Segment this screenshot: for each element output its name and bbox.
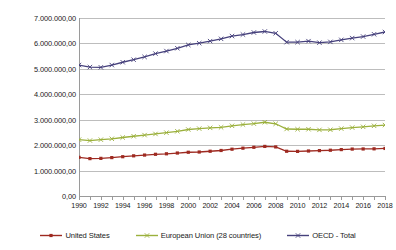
x-axis-tick (276, 196, 277, 200)
data-point-marker (383, 147, 385, 150)
x-axis-tick (156, 196, 157, 200)
legend-marker-icon (287, 231, 309, 240)
series-line (79, 122, 385, 140)
y-axis-tick-label: 4.000.000,00 (34, 90, 76, 99)
x-axis-tick (101, 196, 102, 200)
series-united-states (79, 145, 385, 160)
data-point-marker (165, 152, 168, 155)
x-axis-tick-label: 2000 (181, 201, 196, 210)
x-axis-tick (374, 196, 375, 200)
x-axis-tick-label: 2018 (377, 201, 392, 210)
x-axis-tick-label: 2014 (334, 201, 349, 210)
data-point-marker (198, 150, 201, 153)
x-axis-tick (265, 196, 266, 200)
x-axis-tick (330, 196, 331, 200)
x-axis-tick (210, 196, 211, 200)
data-point-marker (99, 157, 102, 160)
legend-label: United States (65, 231, 109, 240)
y-axis-tick-label: 6.000.000,00 (34, 39, 76, 48)
legend-item[interactable]: United States (40, 231, 109, 240)
data-point-marker (79, 156, 81, 159)
data-point-marker (285, 150, 288, 153)
legend-marker-icon (136, 231, 158, 240)
series-oecd-total (79, 29, 385, 69)
y-axis-tick-label: 7.000.000,00 (34, 14, 76, 23)
x-axis-tick-label: 2004 (224, 201, 239, 210)
y-axis-tick-label: 1.000.000,00 (34, 166, 76, 175)
x-axis-tick (123, 196, 124, 200)
data-point-marker (143, 153, 146, 156)
y-axis-labels: 0,001.000.000,002.000.000,003.000.000,00… (0, 0, 76, 214)
x-axis-tick-label: 1990 (71, 201, 86, 210)
x-axis-tick (352, 196, 353, 200)
data-point-marker (252, 146, 255, 149)
data-point-marker (307, 149, 310, 152)
x-axis-tick (177, 196, 178, 200)
x-axis-tick (385, 196, 386, 200)
chart-legend: United StatesEuropean Union (28 countrie… (0, 227, 396, 243)
x-axis-tick-label: 1996 (137, 201, 152, 210)
line-chart: 0,001.000.000,002.000.000,003.000.000,00… (0, 0, 396, 250)
legend-item[interactable]: European Union (28 countries) (136, 231, 262, 240)
data-point-marker (372, 147, 375, 150)
x-axis-tick-label: 2010 (290, 201, 305, 210)
x-axis-tick (188, 196, 189, 200)
x-axis-tick (309, 196, 310, 200)
y-axis-tick-label: 2.000.000,00 (34, 141, 76, 150)
data-point-marker (176, 151, 179, 154)
data-point-marker (121, 155, 124, 158)
x-axis-tick (298, 196, 299, 200)
data-point-marker (340, 148, 343, 151)
legend-marker-icon (40, 231, 62, 240)
y-axis-tick-label: 3.000.000,00 (34, 115, 76, 124)
data-point-marker (263, 145, 266, 148)
data-point-marker (351, 147, 354, 150)
x-axis-tick-label: 2016 (355, 201, 370, 210)
x-axis-tick (90, 196, 91, 200)
x-axis-tick (341, 196, 342, 200)
series-european-union-28-countries (79, 120, 385, 143)
x-axis-tick (254, 196, 255, 200)
data-point-marker (296, 150, 299, 153)
data-point-marker (110, 156, 113, 159)
data-point-marker (362, 147, 365, 150)
y-axis-tick-label: 5.000.000,00 (34, 64, 76, 73)
x-axis-tick (363, 196, 364, 200)
x-axis-tick (243, 196, 244, 200)
x-axis-tick-label: 2006 (246, 201, 261, 210)
x-axis-tick-label: 1992 (93, 201, 108, 210)
data-point-marker (274, 145, 277, 148)
x-axis-tick-label: 1998 (159, 201, 174, 210)
data-point-marker (318, 149, 321, 152)
x-axis-tick-label: 2002 (202, 201, 217, 210)
legend-label: OECD - Total (312, 231, 355, 240)
legend-label: European Union (28 countries) (161, 231, 262, 240)
x-axis-tick (79, 196, 80, 200)
legend-item[interactable]: OECD - Total (287, 231, 355, 240)
data-point-marker (219, 149, 222, 152)
x-axis-tick (145, 196, 146, 200)
x-axis-tick (319, 196, 320, 200)
data-point-marker (230, 148, 233, 151)
series-line (79, 31, 385, 67)
x-axis-tick (199, 196, 200, 200)
data-point-marker (154, 153, 157, 156)
data-point-marker (50, 233, 53, 236)
data-point-marker (329, 149, 332, 152)
x-axis-tick-label: 2012 (312, 201, 327, 210)
x-axis-tick (134, 196, 135, 200)
x-axis-tick (287, 196, 288, 200)
data-point-marker (88, 157, 91, 160)
x-axis-tick (166, 196, 167, 200)
x-axis-tick (221, 196, 222, 200)
series-layer (79, 18, 385, 196)
x-axis-tick (232, 196, 233, 200)
x-axis-labels: 1990199219941996199820002002200420062008… (0, 201, 396, 215)
data-point-marker (209, 150, 212, 153)
data-point-marker (187, 151, 190, 154)
x-axis-tick-label: 1994 (115, 201, 130, 210)
x-axis-tick-label: 2008 (268, 201, 283, 210)
y-axis-tick-label: 0,00 (62, 192, 76, 201)
data-point-marker (132, 154, 135, 157)
data-point-marker (241, 147, 244, 150)
